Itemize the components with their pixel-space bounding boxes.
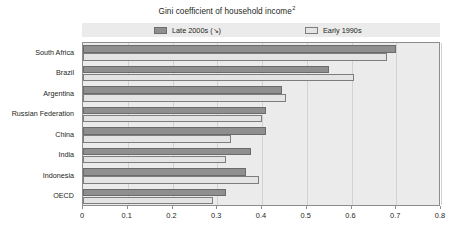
x-tick-label: 0.1: [122, 211, 132, 220]
bar-late-2000s: [83, 127, 266, 134]
bar-late-2000s: [83, 66, 329, 73]
bar-late-2000s: [83, 148, 251, 155]
chart-title-text: Gini coefficient of household income: [159, 7, 292, 16]
legend-item-late-2000s: Late 2000s (↘): [154, 26, 221, 35]
x-tick-label: 0.5: [301, 211, 311, 220]
legend-label-early-1990s: Early 1990s: [323, 26, 362, 35]
x-tick: [127, 206, 128, 209]
category-axis-labels: South AfricaBrazilArgentinaRussian Feder…: [0, 42, 78, 206]
chart-legend: Late 2000s (↘) Early 1990s: [82, 23, 440, 37]
x-tick-label: 0.6: [345, 211, 355, 220]
bar-early-1990s: [83, 74, 354, 81]
x-tick-label: 0: [80, 211, 84, 220]
bar-group: [83, 105, 439, 126]
chart-title-superscript: 2: [292, 5, 295, 11]
bar-group: [83, 146, 439, 167]
bar-early-1990s: [83, 115, 262, 122]
bar-group: [83, 64, 439, 85]
bar-early-1990s: [83, 135, 231, 142]
bar-late-2000s: [83, 168, 246, 175]
x-tick: [172, 206, 173, 209]
bar-late-2000s: [83, 86, 282, 93]
bar-early-1990s: [83, 94, 286, 101]
category-label: South Africa: [35, 48, 74, 57]
chart-title: Gini coefficient of household income2: [0, 5, 454, 16]
bar-group: [83, 43, 439, 64]
legend-label-late-2000s: Late 2000s (↘): [172, 26, 221, 35]
bar-early-1990s: [83, 197, 213, 204]
category-label: Argentina: [43, 89, 74, 98]
bar-rows: [83, 43, 439, 205]
x-tick-label: 0.3: [211, 211, 221, 220]
bar-group: [83, 166, 439, 187]
legend-swatch-icon-early-1990s: [305, 27, 318, 34]
bar-group: [83, 84, 439, 105]
gridline: [441, 43, 442, 205]
gini-coefficient-bar-chart: Gini coefficient of household income2 La…: [0, 0, 454, 238]
category-label: Russian Federation: [12, 109, 74, 118]
bar-late-2000s: [83, 189, 226, 196]
bar-group: [83, 187, 439, 208]
bar-group: [83, 125, 439, 146]
x-tick: [216, 206, 217, 209]
category-label: OECD: [53, 191, 74, 200]
x-tick: [306, 206, 307, 209]
category-label: China: [55, 130, 74, 139]
bar-late-2000s: [83, 45, 396, 52]
bar-early-1990s: [83, 53, 387, 60]
x-axis: 00.10.20.30.40.50.60.70.8: [82, 206, 440, 226]
bar-early-1990s: [83, 176, 259, 183]
x-tick: [395, 206, 396, 209]
plot-area: [82, 42, 440, 206]
x-tick: [82, 206, 83, 209]
legend-item-early-1990s: Early 1990s: [305, 26, 362, 35]
x-tick-label: 0.2: [166, 211, 176, 220]
x-tick-label: 0.8: [435, 211, 445, 220]
x-tick: [440, 206, 441, 209]
x-tick-label: 0.4: [256, 211, 266, 220]
category-label: India: [58, 150, 74, 159]
category-label: Indonesia: [43, 171, 74, 180]
legend-swatch-icon-late-2000s: [154, 27, 167, 34]
category-label: Brazil: [56, 68, 74, 77]
x-tick-label: 0.7: [390, 211, 400, 220]
x-tick: [261, 206, 262, 209]
x-tick: [351, 206, 352, 209]
bar-late-2000s: [83, 107, 266, 114]
bar-early-1990s: [83, 156, 226, 163]
